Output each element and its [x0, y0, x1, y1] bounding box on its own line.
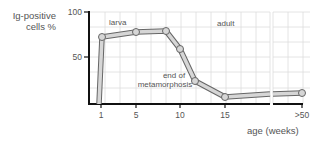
y-tick-100: 100	[62, 7, 82, 17]
data-points	[99, 28, 306, 101]
annotation-end-line2: metamorphosis	[127, 80, 203, 89]
annotation-adult: adult	[217, 19, 234, 28]
x-tick-1: 1	[89, 110, 113, 120]
annotation-larva: larva	[109, 18, 126, 27]
y-tick-50: 50	[62, 52, 82, 62]
x-tick-50: >50	[290, 110, 314, 120]
annotation-end-line1: end of	[127, 71, 203, 80]
annotation-end-of-metamorphosis: end of metamorphosis	[127, 71, 203, 89]
x-tick-5: 5	[124, 110, 148, 120]
x-tick-15: 15	[213, 110, 237, 120]
x-tick-10: 10	[168, 110, 192, 120]
x-axis-label: age (weeks)	[247, 125, 299, 136]
